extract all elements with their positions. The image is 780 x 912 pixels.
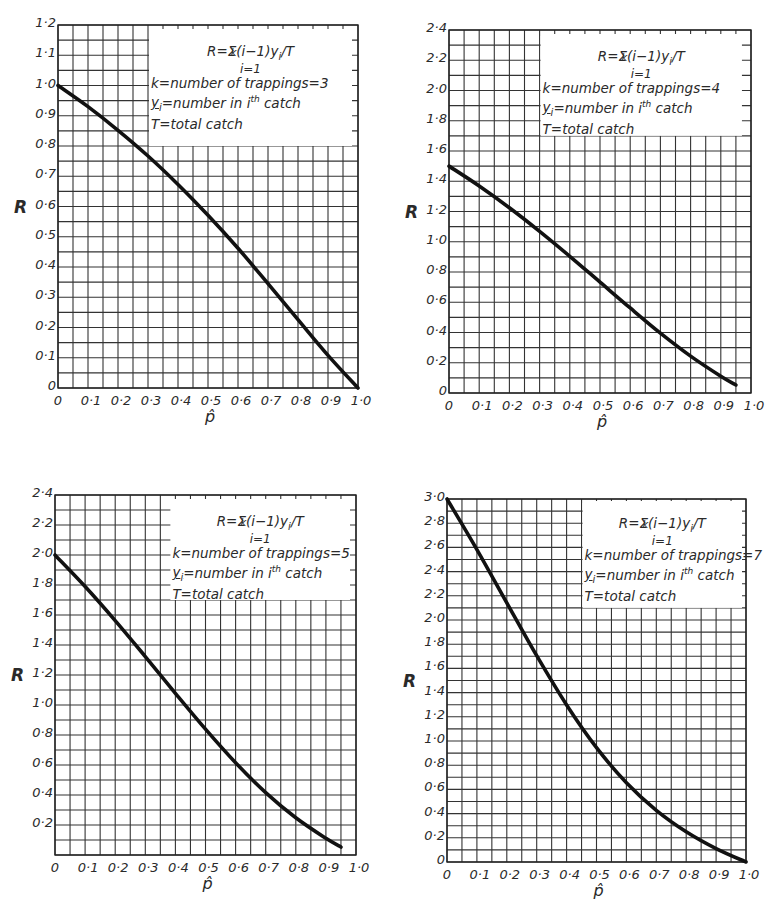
legend-t-line: T=total catch [585,588,740,604]
y-tick-label: 2·0 [32,545,53,560]
x-tick-label: 0·8 [288,860,309,875]
sum-lower-limit: i=1 [543,68,740,80]
sum-upper-limit: k [621,50,627,66]
legend-y-line: yi=number in ith catch [585,563,740,588]
y-tick-label: 2·4 [32,485,53,500]
y-axis-label: R [405,202,418,222]
y-tick-label: 1·8 [32,575,53,590]
sum-upper-limit: k [231,45,237,61]
legend-k-line: k=number of trappings=3 [151,75,350,91]
formula-text: R=kΣ(i−1)yi/T [598,48,685,64]
y-tick-label: 1·2 [424,707,445,722]
x-tick-label: 0·4 [559,867,580,882]
y-tick-label: 1·2 [35,15,56,30]
sum-lower-limit: i=1 [585,535,740,547]
x-tick-label: 0·3 [529,867,550,882]
x-tick-label: 0·6 [623,398,644,413]
y-tick-label: 0·7 [35,166,56,181]
x-tick-label: 0·2 [502,398,523,413]
sum-lower-limit: i=1 [172,533,348,545]
y-tick-label: 0·4 [35,257,56,272]
legend-box: R=kΣ(i−1)yi/Ti=1k=number of trappings=3y… [151,29,350,144]
y-tick-label: 0·6 [424,779,445,794]
y-tick-label: 0·2 [35,318,56,333]
x-tick-label: 0·9 [713,398,734,413]
x-tick-label: 0·1 [470,867,491,882]
legend-box: R=kΣ(i−1)yi/Ti=1k=number of trappings=7y… [585,501,740,606]
x-tick-label: 0·7 [261,393,282,408]
x-tick-label: 0·7 [653,398,674,413]
formula-text: R=kΣ(i−1)yi/T [619,515,706,531]
x-tick-labels: 00·10·20·30·40·50·60·70·80·91·0 [443,867,759,882]
y-axis-label: R [403,671,416,691]
y-tick-label: 0·8 [426,262,447,277]
x-axis-label: p̂ [596,412,607,431]
formula-text: R=kΣ(i−1)yi/T [217,513,304,529]
legend-box: R=kΣ(i−1)yi/Ti=1k=number of trappings=4y… [543,34,740,134]
y-tick-label: 0·5 [35,227,56,242]
y-tick-label: 2·4 [426,20,447,35]
y-tick-label: 0 [439,383,447,398]
y-tick-label: 0·4 [32,785,53,800]
legend-y-line: yi=number in ith catch [151,91,350,116]
x-tick-label: 1·0 [739,867,760,882]
x-tick-label: 0·6 [228,860,249,875]
x-tick-label: 0·4 [171,393,192,408]
chart-k7: 00·20·40·60·81·01·21·41·61·82·02·22·42·6… [397,487,776,912]
x-tick-label: 0 [54,393,62,408]
y-tick-label: 2·4 [424,562,445,577]
y-tick-label: 1·1 [35,45,56,60]
y-tick-label: 1·8 [424,634,445,649]
formula: R=kΣ(i−1)yi/Ti=1 [585,501,740,547]
formula: R=kΣ(i−1)yi/Ti=1 [151,29,350,75]
legend-t-line: T=total catch [543,121,740,137]
x-tick-label: 0·8 [291,393,312,408]
x-tick-label: 0·8 [683,398,704,413]
x-tick-label: 0·3 [141,393,162,408]
x-tick-label: 0·5 [201,393,222,408]
x-tick-label: 0 [445,398,453,413]
formula-text: R=kΣ(i−1)yi/T [207,43,294,59]
y-tick-label: 0·2 [426,353,447,368]
x-tick-label: 0·1 [81,393,102,408]
x-tick-label: 0 [51,860,59,875]
x-tick-label: 0·2 [108,860,129,875]
y-tick-label: 0·2 [32,815,53,830]
y-tick-label: 1·0 [424,731,445,746]
y-tick-label: 2·0 [424,610,445,625]
x-tick-label: 1·0 [351,393,372,408]
legend-k-line: k=number of trappings=7 [585,547,740,563]
chart-k3: 00·10·20·30·40·50·60·70·80·91·01·11·200·… [8,13,388,446]
sum-upper-limit: k [642,517,648,533]
x-tick-label: 0·4 [168,860,189,875]
formula: R=kΣ(i−1)yi/Ti=1 [543,34,740,80]
legend-y-line: yi=number in ith catch [172,561,348,586]
x-tick-label: 0·2 [111,393,132,408]
x-tick-label: 1·0 [744,398,765,413]
y-tick-labels: 00·10·20·30·40·50·60·70·80·91·01·11·2 [35,15,56,393]
y-tick-label: 0·6 [35,197,56,212]
y-tick-label: 2·8 [424,513,445,528]
y-tick-label: 2·2 [426,50,447,65]
x-tick-label: 0 [443,867,451,882]
y-tick-label: 1·0 [426,232,447,247]
y-tick-label: 0 [48,378,56,393]
y-tick-label: 0·6 [426,292,447,307]
x-tick-label: 0·9 [321,393,342,408]
y-axis-label: R [14,197,27,217]
x-tick-label: 0·1 [78,860,99,875]
y-tick-label: 1·0 [32,695,53,710]
y-tick-label: 0·6 [32,755,53,770]
y-tick-label: 0·8 [35,136,56,151]
sum-lower-limit: i=1 [151,63,350,75]
y-tick-label: 1·4 [426,171,447,186]
x-tick-label: 0·9 [709,867,730,882]
y-tick-label: 0·9 [35,106,56,121]
y-axis-label: R [11,665,24,685]
y-tick-labels: 0·20·40·60·81·01·21·41·61·82·02·22·4 [32,485,53,830]
y-tick-label: 1·2 [32,665,53,680]
y-tick-label: 2·6 [424,537,445,552]
x-tick-label: 0·9 [319,860,340,875]
y-tick-label: 1·6 [32,605,53,620]
x-tick-labels: 00·10·20·30·40·50·60·70·80·91·0 [54,393,371,408]
